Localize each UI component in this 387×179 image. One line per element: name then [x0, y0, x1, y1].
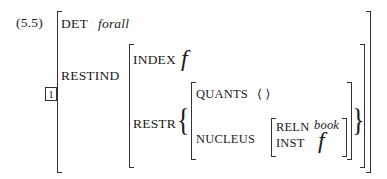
det-label: DET	[61, 17, 88, 31]
outer-left-bracket	[57, 11, 62, 173]
tag-box: 1	[45, 87, 57, 101]
quants-label: QUANTS	[196, 88, 248, 101]
set-close-brace: }	[352, 105, 364, 136]
index-label: INDEX	[133, 53, 176, 67]
restr-label: RESTR	[133, 117, 176, 131]
inst-label: INST	[276, 137, 305, 150]
inst-value: f	[318, 128, 325, 152]
example-number: (5.5)	[16, 16, 43, 30]
outer-right-bracket	[366, 11, 371, 173]
quants-value: ⟨ ⟩	[257, 88, 270, 101]
reln-label: RELN	[276, 121, 309, 134]
set-open-brace: {	[177, 105, 189, 136]
index-value: f	[181, 46, 188, 70]
nucleus-right-bracket	[342, 118, 347, 157]
det-value: forall	[98, 17, 129, 31]
restind-label: RESTIND	[61, 69, 119, 83]
nucleus-label: NUCLEUS	[196, 133, 255, 146]
